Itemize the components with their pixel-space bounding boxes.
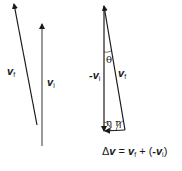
- label-vf-triangle: vf: [118, 68, 126, 80]
- theta-label: θ: [106, 55, 112, 65]
- eq-close: ): [164, 145, 168, 157]
- eta-labels: η η: [106, 118, 121, 128]
- vf-arrow: [14, 4, 37, 125]
- delta-v-equation: Δv = vf + (-vi): [102, 146, 167, 158]
- vf-subscript: f: [13, 71, 15, 78]
- theta-arc: [104, 51, 111, 52]
- vf-tri-subscript: f: [124, 73, 126, 80]
- eq-equals: =: [115, 145, 128, 157]
- eq-plus: + (: [136, 145, 152, 157]
- label-neg-vi: -vi: [89, 70, 100, 82]
- vi-subscript: i: [53, 82, 55, 89]
- delta-v-arrow: [105, 130, 125, 131]
- neg-vi-subscript: i: [99, 75, 101, 82]
- label-vi-left: vi: [47, 77, 55, 89]
- label-vf-left: vf: [7, 66, 15, 78]
